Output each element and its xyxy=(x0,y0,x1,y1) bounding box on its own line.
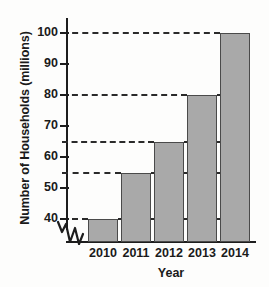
bar xyxy=(154,142,184,243)
bar xyxy=(220,33,250,242)
x-axis-tick-label: 2010 xyxy=(86,246,120,260)
y-axis-tick-label: 90 xyxy=(22,57,58,70)
y-axis-tick-label: 60 xyxy=(22,150,58,163)
x-axis-tick-label: 2014 xyxy=(218,246,252,260)
y-axis-tick-label: 100 xyxy=(22,26,58,39)
y-axis-tick xyxy=(60,63,69,65)
x-axis-tick-label: 2011 xyxy=(119,246,153,260)
y-axis-tick-label: 70 xyxy=(22,119,58,132)
axis-break-icon xyxy=(56,218,90,252)
bar xyxy=(187,95,217,242)
gridline xyxy=(62,32,220,34)
x-axis-tick-label: 2013 xyxy=(185,246,219,260)
y-axis-line xyxy=(66,18,68,230)
bar xyxy=(121,173,151,243)
y-axis-tick xyxy=(60,94,69,96)
y-axis-tick xyxy=(60,125,69,127)
x-axis-tick-label: 2012 xyxy=(152,246,186,260)
gridline xyxy=(62,141,154,143)
y-axis-tick xyxy=(60,32,69,34)
y-axis-tick-label: 40 xyxy=(22,212,58,225)
gridline xyxy=(62,172,121,174)
y-axis-tick xyxy=(60,187,69,189)
x-axis-title: Year xyxy=(88,266,254,280)
bar xyxy=(88,219,118,242)
gridline xyxy=(62,94,187,96)
y-axis-tick-label: 80 xyxy=(22,88,58,101)
y-axis-tick xyxy=(60,156,69,158)
y-axis-tick-label: 50 xyxy=(22,181,58,194)
bar-chart: Number of Households (millions) 40506070… xyxy=(0,0,269,287)
